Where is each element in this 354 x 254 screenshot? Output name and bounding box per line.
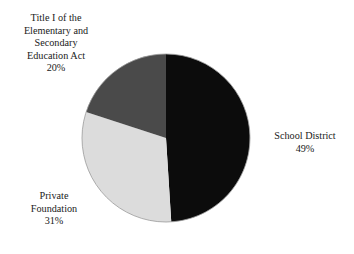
pie-chart-figure: Title I of the Elementary and Secondary … <box>0 0 354 254</box>
slice-label-school-district: School District 49% <box>256 130 354 155</box>
slice-label-title-i-line1: Title I of the <box>2 12 110 25</box>
slice-label-title-i-line2: Elementary and <box>2 25 110 38</box>
slice-label-title-i-line3: Secondary <box>2 37 110 50</box>
slice-label-title-i-line4: Education Act <box>2 50 110 63</box>
pie-slices <box>82 54 250 222</box>
slice-label-private-foundation-line2: Foundation <box>8 203 100 216</box>
slice-value-title-i: 20% <box>2 62 110 75</box>
slice-value-school-district: 49% <box>256 143 354 156</box>
slice-label-title-i: Title I of the Elementary and Secondary … <box>2 12 110 75</box>
slice-label-private-foundation-line1: Private <box>8 190 100 203</box>
slice-value-private-foundation: 31% <box>8 215 100 228</box>
slice-label-school-district-line1: School District <box>256 130 354 143</box>
pie-slice-school-district[interactable] <box>166 54 250 222</box>
slice-label-private-foundation: Private Foundation 31% <box>8 190 100 228</box>
